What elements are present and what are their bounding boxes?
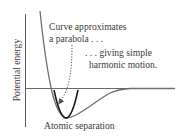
parabola-curve [54, 90, 78, 118]
dotted-arrow [60, 45, 72, 102]
potential-energy-diagram: Potential energy Curve approximates a pa… [0, 0, 182, 140]
y-axis-label: Potential energy [11, 39, 22, 101]
annotation-harmonic-line2: harmonic motion. [89, 59, 157, 70]
x-axis-label: Atomic separation [44, 120, 115, 131]
annotation-harmonic-line1: . . . giving simple [85, 47, 152, 58]
annotation-parabola-line1: Curve approximates [49, 21, 127, 32]
annotation-parabola-line2: a parabola . . . [49, 33, 103, 44]
